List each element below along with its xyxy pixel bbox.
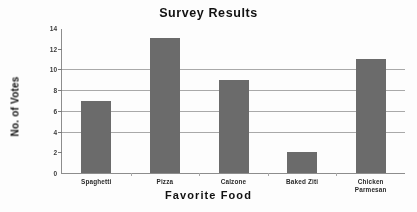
y-tick-label: 14 [50,25,57,32]
bar[interactable] [356,59,386,173]
y-axis-title-text: No. of Votes [10,76,21,136]
bar[interactable] [219,80,249,173]
x-axis-category-label: Pizza [157,178,174,186]
y-axis-title: No. of Votes [8,60,22,152]
y-tick-mark [58,49,62,50]
x-axis-line [61,173,405,174]
y-tick-mark [58,111,62,112]
y-tick-label: 4 [53,128,57,135]
x-tick-mark [199,173,200,176]
y-tick-mark [58,69,62,70]
x-axis-title: Favorite Food [0,189,417,201]
y-tick-mark [58,152,62,153]
plot-area: 02468101214 SpaghettiPizzaCalzoneBaked Z… [62,28,407,178]
survey-results-bar-chart: Survey Results No. of Votes 02468101214 … [0,0,417,212]
y-tick-label: 12 [50,45,57,52]
chart-title: Survey Results [0,6,417,20]
y-tick-mark [58,132,62,133]
y-tick-mark [58,90,62,91]
y-tick-label: 10 [50,66,57,73]
y-tick-label: 6 [53,107,57,114]
bar[interactable] [81,101,111,174]
y-tick-label: 0 [53,170,57,177]
bar[interactable] [287,152,317,173]
x-axis-category-label: Spaghetti [81,178,111,186]
bar[interactable] [150,38,180,173]
x-tick-mark [131,173,132,176]
gridline [62,69,405,70]
y-tick-label: 8 [53,87,57,94]
x-axis-category-label: Calzone [221,178,247,186]
x-axis-category-label: Baked Ziti [286,178,318,186]
x-tick-mark [336,173,337,176]
y-tick-label: 2 [53,149,57,156]
x-tick-mark [268,173,269,176]
